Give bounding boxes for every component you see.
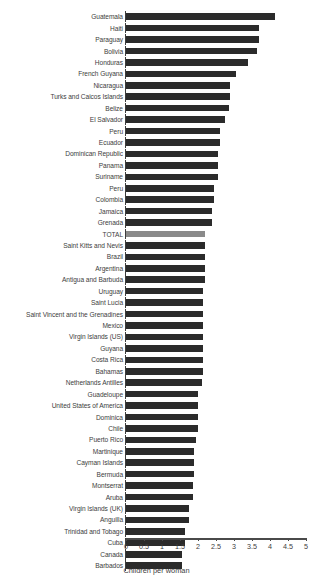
bar-category-label: Jamaica bbox=[0, 208, 126, 215]
bar-row: El Salvador bbox=[0, 114, 313, 125]
x-tick-label: 4.5 bbox=[283, 543, 293, 551]
bar bbox=[126, 379, 202, 386]
bar bbox=[126, 437, 196, 444]
bar-category-label: Guyana bbox=[0, 345, 126, 352]
x-axis-ticks: 00.511.522.533.544.55 bbox=[126, 538, 306, 550]
bar-track bbox=[126, 354, 313, 365]
bar-category-label: Saint Kitts and Nevis bbox=[0, 242, 126, 249]
bar-track bbox=[126, 34, 313, 45]
bar-category-label: Honduras bbox=[0, 59, 126, 66]
bar-track bbox=[126, 503, 313, 514]
bar-category-label: El Salvador bbox=[0, 116, 126, 123]
bar-category-label: French Guyana bbox=[0, 70, 126, 77]
bar bbox=[126, 425, 198, 432]
x-tick-label: 5 bbox=[304, 543, 308, 551]
bar bbox=[126, 162, 218, 169]
bar-track bbox=[126, 377, 313, 388]
bar bbox=[126, 59, 248, 66]
bar-row: Netherlands Antilles bbox=[0, 377, 313, 388]
bar bbox=[126, 82, 230, 89]
bar-row: Suriname bbox=[0, 171, 313, 182]
bar bbox=[126, 276, 205, 283]
bar bbox=[126, 391, 198, 398]
bar-track bbox=[126, 45, 313, 56]
bar-track bbox=[126, 423, 313, 434]
bar-row: Canada bbox=[0, 549, 313, 560]
bar bbox=[126, 402, 198, 409]
bar bbox=[126, 345, 203, 352]
bar-track bbox=[126, 251, 313, 262]
bar bbox=[126, 528, 185, 535]
bar-category-label: Peru bbox=[0, 185, 126, 192]
bar-category-label: Dominican Republic bbox=[0, 150, 126, 157]
bar-track bbox=[126, 205, 313, 216]
bar-track bbox=[126, 80, 313, 91]
bar-row: United States of America bbox=[0, 400, 313, 411]
bar bbox=[126, 334, 203, 341]
bar-row: Chile bbox=[0, 423, 313, 434]
bar-category-label: Saint Lucia bbox=[0, 299, 126, 306]
bar-category-label: Panama bbox=[0, 162, 126, 169]
bar-row: Cayman Islands bbox=[0, 457, 313, 468]
bar bbox=[126, 494, 193, 501]
bar-track bbox=[126, 434, 313, 445]
x-tick-label: 3.5 bbox=[247, 543, 257, 551]
x-tick-label: 3 bbox=[232, 543, 236, 551]
bar-category-label: Martinique bbox=[0, 448, 126, 455]
bar-category-label: Cayman Islands bbox=[0, 459, 126, 466]
bar-category-label: Ecuador bbox=[0, 139, 126, 146]
bar bbox=[126, 25, 259, 32]
bar-category-label: TOTAL bbox=[0, 231, 126, 238]
bar-track bbox=[126, 411, 313, 422]
bar-row: Turks and Caicos Islands bbox=[0, 91, 313, 102]
bar bbox=[126, 517, 189, 524]
bar-row: Antigua and Barbuda bbox=[0, 274, 313, 285]
bar-category-label: Canada bbox=[0, 551, 126, 558]
bar bbox=[126, 13, 275, 20]
bar-row: Argentina bbox=[0, 263, 313, 274]
bar bbox=[126, 128, 220, 135]
bar-row: Peru bbox=[0, 183, 313, 194]
bar bbox=[126, 551, 182, 558]
bar-track bbox=[126, 286, 313, 297]
bar-track bbox=[126, 400, 313, 411]
bar-track bbox=[126, 125, 313, 136]
bar-track bbox=[126, 388, 313, 399]
bar bbox=[126, 459, 194, 466]
bar-category-label: Grenada bbox=[0, 219, 126, 226]
bar-row: Panama bbox=[0, 160, 313, 171]
bar bbox=[126, 265, 205, 272]
bar-category-label: Virgin Islands (UK) bbox=[0, 505, 126, 512]
bar-track bbox=[126, 457, 313, 468]
bar-category-label: Uruguay bbox=[0, 288, 126, 295]
bar bbox=[126, 139, 220, 146]
bar-category-label: Virgin Islands (US) bbox=[0, 333, 126, 340]
bar-track bbox=[126, 491, 313, 502]
bar-track bbox=[126, 103, 313, 114]
bar bbox=[126, 174, 218, 181]
bar-category-label: Dominica bbox=[0, 414, 126, 421]
bar-track bbox=[126, 469, 313, 480]
bar-track bbox=[126, 343, 313, 354]
x-tick-label: 2 bbox=[196, 543, 200, 551]
bar-track bbox=[126, 480, 313, 491]
bar-row: Colombia bbox=[0, 194, 313, 205]
x-tick-label: 4 bbox=[268, 543, 272, 551]
bar-track bbox=[126, 331, 313, 342]
x-tick-label: 1.5 bbox=[175, 543, 185, 551]
bar-row: Puerto Rico bbox=[0, 434, 313, 445]
bar-track bbox=[126, 274, 313, 285]
bar bbox=[126, 116, 225, 123]
bar-row: Anguilla bbox=[0, 514, 313, 525]
bar-row: Mexico bbox=[0, 320, 313, 331]
bar-row: Guatemala bbox=[0, 11, 313, 22]
bar-category-label: Anguilla bbox=[0, 516, 126, 523]
bar-row: Virgin Islands (US) bbox=[0, 331, 313, 342]
bar-category-label: Puerto Rico bbox=[0, 436, 126, 443]
bar-category-label: Peru bbox=[0, 128, 126, 135]
bar bbox=[126, 299, 203, 306]
bar bbox=[126, 93, 230, 100]
bar-track bbox=[126, 68, 313, 79]
bar-row: Nicaragua bbox=[0, 80, 313, 91]
bar bbox=[126, 482, 193, 489]
